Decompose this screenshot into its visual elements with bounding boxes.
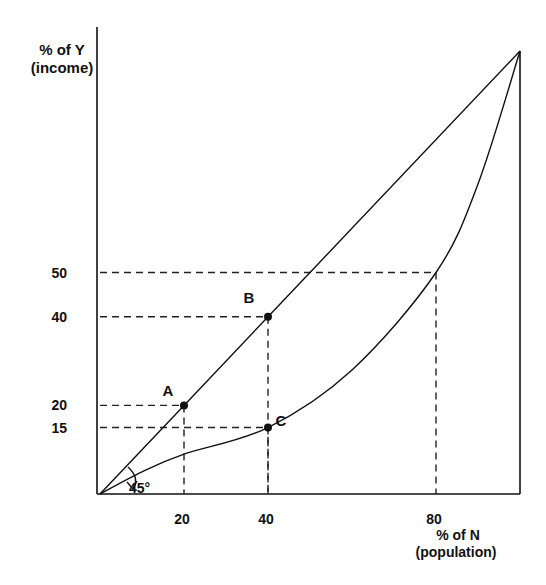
point-label-A: A [163, 382, 174, 399]
y-tick-label: 20 [51, 397, 67, 413]
y-axis-label-line1: % of Y [39, 41, 85, 58]
y-tick-label: 40 [51, 309, 67, 325]
y-tick-label: 15 [51, 420, 67, 436]
y-axis-label-line2: (income) [31, 59, 94, 76]
point-label-B: B [244, 289, 255, 306]
x-tick-label: 40 [258, 511, 274, 527]
lorenz-chart: ABC15204050204080 % of Y (income) % of N… [0, 0, 546, 585]
point-A [180, 401, 188, 409]
x-axis-label-line1: % of N [436, 527, 480, 543]
x-axis-label-line2: (population) [416, 544, 497, 560]
angle-annotation: 45° [129, 480, 150, 496]
x-tick-label: 80 [426, 511, 442, 527]
point-B [264, 313, 272, 321]
point-C [264, 424, 272, 432]
y-tick-label: 50 [51, 265, 67, 281]
point-label-C: C [276, 412, 287, 429]
x-tick-label: 20 [174, 511, 190, 527]
